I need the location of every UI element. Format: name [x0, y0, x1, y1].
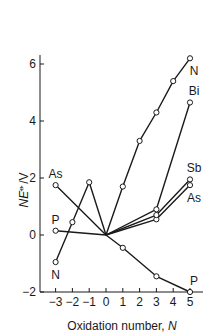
data-point-p: [187, 289, 192, 294]
x-tick-label: 4: [170, 295, 177, 309]
series-label-n: N: [190, 64, 199, 78]
series-label-sb: Sb: [187, 161, 202, 175]
data-point-sb: [154, 212, 159, 217]
series-label-p: P: [52, 213, 60, 227]
data-point-n: [187, 56, 192, 61]
x-axis-label: Oxidation number, N: [67, 319, 177, 333]
frost-diagram: −20246−3−2−1012345 NNPPAsAsSbBi Oxidatio…: [0, 0, 216, 335]
x-tick-label: −3: [49, 295, 63, 309]
data-point-n: [70, 220, 75, 225]
data-markers: [53, 56, 193, 295]
series-line-sb: [106, 179, 190, 235]
data-point-n: [87, 180, 92, 185]
data-point-as: [187, 183, 192, 188]
y-tick-label: 6: [29, 57, 36, 71]
data-point-bi: [187, 100, 192, 105]
series-label-as: As: [187, 191, 201, 205]
x-tick-label: 1: [119, 295, 126, 309]
series-label-n: N: [51, 268, 60, 282]
series-label-bi: Bi: [189, 84, 200, 98]
series-label-as: As: [49, 167, 63, 181]
x-tick-label: −2: [66, 295, 80, 309]
series-line-n: [56, 58, 190, 262]
y-tick-label: 0: [29, 228, 36, 242]
data-point-n: [53, 259, 58, 264]
data-point-p: [53, 228, 58, 233]
x-tick-label: 0: [103, 295, 110, 309]
y-axis-label: NE⦵/V: [16, 172, 31, 207]
data-point-n: [137, 138, 142, 143]
series-lines: [56, 58, 190, 292]
x-tick-label: −1: [82, 295, 96, 309]
x-tick-label: 3: [153, 295, 160, 309]
series-line-as: [56, 185, 190, 235]
data-point-sb: [187, 177, 192, 182]
data-point-p: [120, 245, 125, 250]
series-labels: NNPPAsAsSbBi: [49, 64, 202, 288]
data-point-p: [154, 274, 159, 279]
x-tick-label: 2: [136, 295, 143, 309]
data-point-as: [53, 183, 58, 188]
series-line-p: [56, 231, 190, 292]
y-tick-label: 4: [29, 114, 36, 128]
axes: −20246−3−2−1012345: [22, 55, 203, 309]
chart-canvas: −20246−3−2−1012345 NNPPAsAsSbBi Oxidatio…: [0, 0, 216, 335]
data-point-bi: [154, 207, 159, 212]
x-tick-label: 5: [187, 295, 194, 309]
data-point-n: [171, 79, 176, 84]
data-point-n: [120, 184, 125, 189]
series-line-bi: [106, 103, 190, 236]
series-label-p: P: [190, 274, 198, 288]
y-tick-label: −2: [22, 285, 36, 299]
data-point-n: [154, 110, 159, 115]
